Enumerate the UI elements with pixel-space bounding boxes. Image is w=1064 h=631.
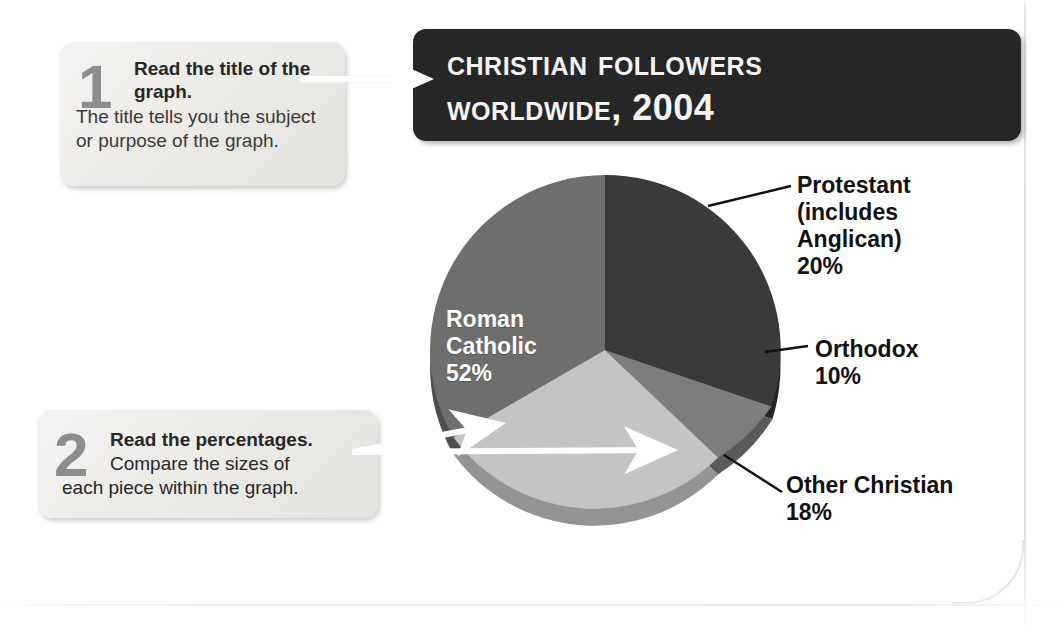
callout-step-1-text: Read the title of the graph. The title t…: [134, 57, 334, 153]
pie-label-protestant: Protestant (includes Anglican) 20%: [797, 172, 997, 280]
pie-label-other-christian: Other Christian 18%: [786, 472, 1036, 526]
callout-step-2-text: Read the percentages. Compare the sizes …: [110, 428, 372, 500]
pie-label-roman-catholic: Roman Catholic 52%: [446, 306, 586, 387]
callout-step-2-heading: Read the percentages.: [110, 429, 313, 450]
figure-canvas: Christian Followers Worldwide, 2004 1 Re…: [0, 0, 1064, 631]
callout-step-2: 2 Read the percentages. Compare the size…: [38, 410, 378, 518]
callout-step-1-heading: Read the title of the graph.: [134, 58, 310, 102]
chart-title-line2: Worldwide, 2004: [447, 85, 1009, 130]
page-corner-curl: [952, 540, 1024, 604]
page-edge-rule-bottom: [0, 604, 1064, 606]
chart-title-line1: Christian Followers: [447, 40, 1009, 85]
callout-step-1: 1 Read the title of the graph. The title…: [60, 42, 345, 186]
callout-step-2-body-line2: each piece within the graph.: [62, 476, 372, 500]
pie-label-orthodox: Orthodox 10%: [815, 336, 995, 390]
callout-step-2-body-line1: Compare the sizes of: [110, 452, 372, 476]
chart-title-banner: Christian Followers Worldwide, 2004: [413, 29, 1021, 141]
page-edge-rule-right: [1024, 0, 1026, 631]
chart-title: Christian Followers Worldwide, 2004: [447, 40, 1009, 130]
callout-step-1-body: The title tells you the subject or purpo…: [76, 105, 328, 153]
